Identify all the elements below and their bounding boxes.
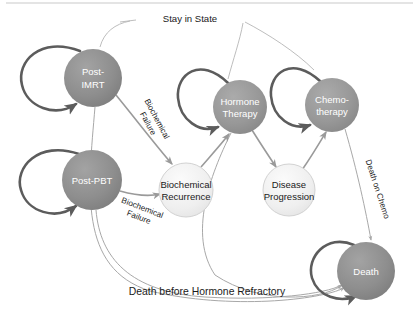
node-post-pbt-circle[interactable] [62,150,122,210]
leader-to-post-imrt [100,21,130,47]
leader-to-hormone-therapy [228,23,243,79]
node-post-imrt-circle[interactable] [64,49,122,107]
diagram-canvas: Post- IMRT Post-PBT Hormone Therapy Chem… [0,0,419,317]
node-death[interactable]: Death [337,242,395,300]
edge-hormone-therapy-to-disease-progression [252,130,276,167]
node-post-imrt[interactable]: Post- IMRT [64,49,122,107]
edge-chemotherapy-to-death [345,129,371,240]
node-disease-progression-circle[interactable] [263,164,315,216]
edge-biochemical-recurrence-to-hormone-therapy [201,134,229,167]
state-transition-diagram: Post- IMRT Post-PBT Hormone Therapy Chem… [0,0,419,317]
node-disease-progression[interactable]: Disease Progression [263,164,315,216]
node-biochemical-recurrence-circle[interactable] [159,163,213,217]
edge-label-death-before-hormone-refractory: Death before Hormone Refractory [129,286,286,297]
edge-label-biochemical-failure-imrt: Biochemical Failure [134,97,172,145]
node-post-pbt[interactable]: Post-PBT [62,150,122,210]
node-hormone-therapy-circle[interactable] [213,80,267,134]
edge-post-pbt-to-biochemical-recurrence [120,191,160,195]
edge-label-stay-in-state: Stay in State [163,13,217,24]
edge-label-death-on-chemo: Death on Chemo [364,158,392,220]
node-chemotherapy[interactable]: Chemo- therapy [305,78,359,132]
node-biochemical-recurrence[interactable]: Biochemical Recurrence [159,163,213,217]
nodes-group: Post- IMRT Post-PBT Hormone Therapy Chem… [62,49,395,300]
node-death-circle[interactable] [337,242,395,300]
leader-to-chemotherapy [245,22,314,70]
node-chemotherapy-circle[interactable] [305,78,359,132]
node-hormone-therapy[interactable]: Hormone Therapy [213,80,267,134]
edge-label-death-on-chemo-text: Death on Chemo [364,158,392,220]
edge-label-biochemical-failure-pbt: Biochemical Failure [117,196,165,230]
edge-disease-progression-to-chemotherapy [302,132,326,170]
edge-post-pbt-to-death [96,210,342,298]
edge-hormone-therapy-to-death [202,133,341,297]
